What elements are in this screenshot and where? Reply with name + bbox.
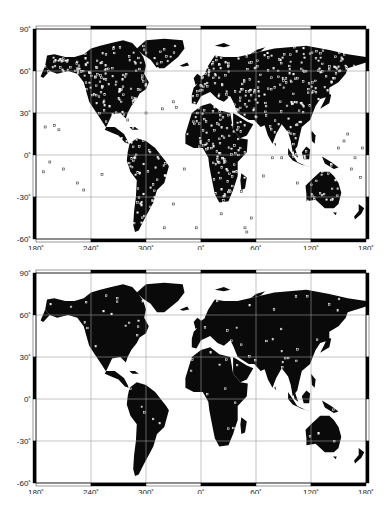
- ocean-station-marker: [240, 190, 242, 192]
- lat-tick-label: 60˚: [19, 311, 31, 320]
- lat-tick-label: 30˚: [19, 109, 31, 118]
- ocean-station-marker: [350, 168, 352, 170]
- lat-tick-label: -30˚: [17, 193, 32, 202]
- lat-tick-label: 90˚: [19, 25, 31, 34]
- ocean-station-marker: [173, 203, 175, 205]
- ocean-station-marker: [162, 108, 164, 110]
- lon-tick-label: 180˚: [358, 488, 374, 494]
- ocean-station-marker: [220, 213, 222, 215]
- world-map-top: 180˚240˚300˚0˚60˚120˚180˚90˚60˚30˚0˚-30˚…: [0, 0, 389, 250]
- ocean-station-marker: [49, 161, 51, 163]
- ocean-station-marker: [338, 147, 340, 149]
- lat-tick-label: 90˚: [19, 269, 31, 278]
- ocean-station-marker: [175, 106, 177, 108]
- lat-tick-label: -60˚: [17, 479, 32, 488]
- ocean-station-marker: [343, 140, 345, 142]
- ocean-station-marker: [195, 227, 197, 229]
- ocean-station-marker: [354, 157, 356, 159]
- lat-tick-label: -60˚: [17, 235, 32, 244]
- ocean-station-marker: [129, 165, 131, 167]
- ocean-station-marker: [76, 182, 78, 184]
- map-panel-top: 180˚240˚300˚0˚60˚120˚180˚90˚60˚30˚0˚-30˚…: [0, 0, 389, 250]
- lat-tick-label: 30˚: [19, 353, 31, 362]
- ocean-station-marker: [184, 168, 186, 170]
- ocean-station-marker: [163, 227, 165, 229]
- ocean-station-marker: [361, 147, 363, 149]
- ocean-station-marker: [83, 189, 85, 191]
- ocean-station-marker: [262, 175, 264, 177]
- lat-tick-label: 60˚: [19, 67, 31, 76]
- ocean-station-marker: [186, 133, 188, 135]
- lon-tick-label: 60˚: [250, 488, 262, 494]
- ocean-station-marker: [246, 231, 248, 233]
- lon-tick-label: 0˚: [197, 488, 204, 494]
- lat-tick-label: 0˚: [24, 151, 31, 160]
- ocean-station-marker: [63, 168, 65, 170]
- map-panel-bottom: 180˚240˚300˚0˚60˚120˚180˚90˚60˚30˚0˚-30˚…: [0, 244, 389, 494]
- ocean-station-marker: [173, 101, 175, 103]
- lon-tick-label: 180˚: [28, 488, 44, 494]
- ocean-station-marker: [272, 157, 274, 159]
- ocean-station-marker: [58, 129, 60, 131]
- ocean-station-marker: [347, 133, 349, 135]
- ocean-station-marker: [101, 174, 103, 176]
- lat-tick-label: 0˚: [24, 395, 31, 404]
- ocean-station-marker: [42, 171, 44, 173]
- lon-tick-label: 240˚: [83, 488, 99, 494]
- world-map-bottom: 180˚240˚300˚0˚60˚120˚180˚90˚60˚30˚0˚-30˚…: [0, 244, 389, 494]
- ocean-station-marker: [127, 119, 129, 121]
- lon-tick-label: 300˚: [138, 488, 154, 494]
- ocean-station-marker: [360, 176, 362, 178]
- ocean-station-marker: [44, 126, 46, 128]
- ocean-station-marker: [296, 182, 298, 184]
- lat-tick-label: -30˚: [17, 437, 32, 446]
- lon-tick-label: 120˚: [303, 488, 319, 494]
- ocean-station-marker: [281, 157, 283, 159]
- ocean-station-marker: [53, 125, 55, 127]
- ocean-station-marker: [250, 217, 252, 219]
- ocean-station-marker: [244, 227, 246, 229]
